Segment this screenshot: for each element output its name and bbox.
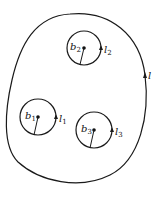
point-label-b1: b1: [25, 110, 36, 123]
outer-curve-label: l: [148, 70, 151, 81]
arrow-icon: [110, 127, 114, 132]
point-label-b3: b3: [81, 123, 92, 136]
point-label-b2: b2: [70, 41, 81, 54]
curve-label-l3: l3: [115, 126, 123, 139]
curve-label-l1: l1: [59, 113, 67, 126]
arrow-icon: [99, 45, 103, 50]
curve-label-l2: l2: [104, 44, 112, 57]
circle-b3: b3 l3: [76, 112, 123, 148]
circle-b2: b2 l2: [67, 31, 112, 65]
outer-arrow-icon: [143, 72, 147, 78]
circle-b1: b1 l1: [20, 99, 67, 135]
outer-boundary-curve: [6, 14, 146, 183]
domain-diagram: l b2 l2 b1 l1 b3 l3: [0, 0, 153, 198]
arrow-icon: [54, 114, 58, 119]
